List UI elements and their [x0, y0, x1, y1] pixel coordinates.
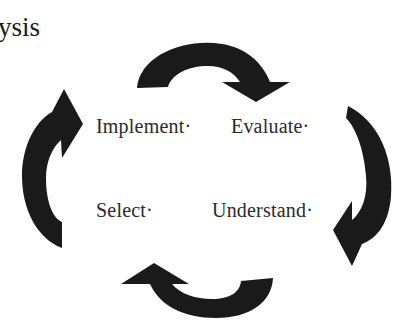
stage-label-implement: Implement· — [96, 116, 191, 136]
cycle-arrows — [0, 0, 409, 328]
stage-label-understand: Understand· — [212, 200, 313, 220]
cycle-diagram: ysis Implement· Evaluate· Select· Unders… — [0, 0, 409, 328]
stage-label-select: Select· — [96, 200, 153, 220]
curved-arrow-left-icon — [121, 263, 273, 318]
stage-label-evaluate: Evaluate· — [231, 116, 309, 136]
curved-arrow-up-icon — [22, 89, 83, 248]
curved-arrow-down-icon — [333, 106, 391, 266]
curved-arrow-right-icon — [137, 43, 290, 102]
